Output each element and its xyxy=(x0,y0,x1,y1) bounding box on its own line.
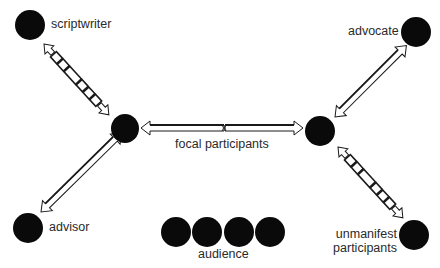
label-unmanifest-line1: unmanifest xyxy=(335,228,397,241)
label-scriptwriter: scriptwriter xyxy=(51,18,111,31)
node-focal-left xyxy=(111,114,139,143)
node-scriptwriter xyxy=(15,10,45,40)
node-audience-4 xyxy=(255,217,285,247)
node-audience-2 xyxy=(192,217,222,247)
label-focal-participants: focal participants xyxy=(175,138,269,151)
arrow-focal-left-to-focal-right xyxy=(141,121,303,135)
node-unmanifest xyxy=(399,220,429,250)
label-unmanifest-line2: participants xyxy=(327,242,397,255)
node-audience-3 xyxy=(224,217,254,247)
node-audience-1 xyxy=(161,217,191,247)
arrow-focal-right-to-advocate xyxy=(330,41,411,122)
node-advisor xyxy=(13,213,43,243)
label-audience: audience xyxy=(198,248,249,261)
node-advocate xyxy=(401,17,431,47)
label-advisor: advisor xyxy=(49,221,89,234)
arrow-focal-left-to-advisor xyxy=(36,128,126,217)
label-advocate: advocate xyxy=(348,25,399,38)
arrow-scriptwriter-to-focal-left xyxy=(40,40,114,119)
participation-diagram: scriptwriter advocate advisor focal part… xyxy=(0,0,440,268)
node-focal-right xyxy=(305,116,335,146)
arrow-focal-right-to-unmanifest xyxy=(334,143,408,222)
